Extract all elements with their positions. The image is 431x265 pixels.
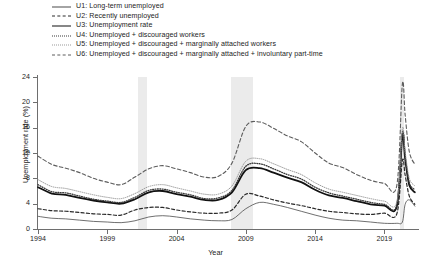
y-tick-label: 0 — [0, 225, 30, 233]
legend-label-u1: U1: Long-term unemployed — [76, 2, 164, 12]
legend-item-u3: U3: Unemployment rate — [52, 21, 382, 31]
x-tick-label: 1994 — [18, 235, 58, 243]
legend-line-u6-icon — [52, 50, 71, 59]
legend-item-u2: U2: Recently unemployed — [52, 12, 382, 22]
x-tick-mark — [246, 229, 247, 234]
plot-area-wrapper: Unemployment rate (%) Year 04812162024 1… — [0, 66, 431, 265]
legend-item-u5: U5: Unemployed + discouraged + marginall… — [52, 40, 382, 50]
legend-label-u3: U3: Unemployment rate — [76, 21, 152, 31]
legend-item-u4: U4: Unemployed + discouraged workers — [52, 31, 382, 41]
x-tick-label: 2019 — [364, 235, 404, 243]
y-tick-mark — [33, 153, 38, 154]
y-tick-mark — [33, 102, 38, 103]
y-tick-mark — [33, 229, 38, 230]
y-tick-mark — [33, 128, 38, 129]
unemployment-rate-chart: U1: Long-term unemployed U2: Recently un… — [0, 0, 431, 265]
y-tick-label: 24 — [0, 73, 30, 81]
y-tick-mark — [33, 77, 38, 78]
series-line-u2 — [38, 159, 415, 217]
legend-item-u1: U1: Long-term unemployed — [52, 2, 382, 12]
y-tick-label: 8 — [0, 174, 30, 182]
legend-line-u4-icon — [52, 31, 71, 40]
legend-label-u2: U2: Recently unemployed — [76, 12, 159, 22]
series-lines — [38, 77, 419, 229]
x-tick-mark — [384, 229, 385, 234]
x-tick-label: 1999 — [87, 235, 127, 243]
y-tick-label: 4 — [0, 199, 30, 207]
x-tick-label: 2004 — [157, 235, 197, 243]
legend-line-u1-icon — [52, 2, 71, 11]
series-line-u4 — [38, 131, 415, 210]
x-axis-label: Year — [0, 248, 431, 257]
legend-line-u5-icon — [52, 41, 71, 50]
legend-label-u4: U4: Unemployed + discouraged workers — [76, 31, 205, 41]
x-tick-label: 2009 — [226, 235, 266, 243]
x-tick-mark — [38, 229, 39, 234]
y-tick-label: 16 — [0, 123, 30, 131]
legend-item-u6: U6: Unemployed + discouraged + marginall… — [52, 50, 382, 60]
x-tick-label: 2014 — [295, 235, 335, 243]
x-tick-mark — [107, 229, 108, 234]
legend-line-u2-icon — [52, 12, 71, 21]
x-tick-mark — [177, 229, 178, 234]
x-tick-mark — [315, 229, 316, 234]
y-tick-mark — [33, 204, 38, 205]
legend-label-u6: U6: Unemployed + discouraged + marginall… — [76, 50, 323, 60]
legend-line-u3-icon — [52, 21, 71, 30]
series-line-u6 — [38, 81, 415, 192]
chart-legend: U1: Long-term unemployed U2: Recently un… — [52, 2, 382, 60]
plot-canvas — [38, 77, 419, 229]
y-axis-label: Unemployment rate (%) — [21, 70, 30, 220]
x-axis-line — [37, 229, 419, 230]
legend-label-u5: U5: Unemployed + discouraged + marginall… — [76, 40, 276, 50]
y-tick-mark — [33, 178, 38, 179]
y-tick-label: 12 — [0, 149, 30, 157]
y-tick-label: 20 — [0, 98, 30, 106]
